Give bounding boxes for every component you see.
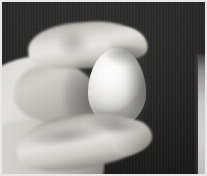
- photo-canvas: [2, 2, 205, 174]
- photograph: [0, 0, 207, 176]
- egg-bottom-contact-shadow: [90, 112, 144, 132]
- egg-rim-shadow: [126, 54, 148, 122]
- index-knuckle-shading: [58, 29, 88, 57]
- egg-top-contact-shadow: [106, 46, 146, 64]
